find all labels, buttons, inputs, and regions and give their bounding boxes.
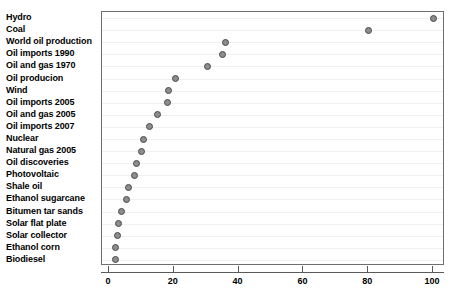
x-axis-tick-label: 60 xyxy=(297,276,307,287)
gridline xyxy=(102,175,443,176)
data-point xyxy=(165,87,172,94)
x-axis-tick xyxy=(432,266,433,273)
gridline xyxy=(102,42,443,43)
x-axis-tick-label: 80 xyxy=(362,276,372,287)
data-point xyxy=(138,148,145,155)
gridline xyxy=(102,18,443,19)
category-label: Oil producion xyxy=(6,73,98,83)
data-point xyxy=(112,244,119,251)
gridline xyxy=(102,79,443,80)
category-label: Oil and gas 1970 xyxy=(6,60,98,70)
gridline xyxy=(102,187,443,188)
gridline xyxy=(102,151,443,152)
data-point xyxy=(365,27,372,34)
data-point xyxy=(118,208,125,215)
scatter-chart: HydroCoalWorld oil productionOil imports… xyxy=(0,0,452,299)
gridline xyxy=(102,54,443,55)
data-point xyxy=(115,220,122,227)
x-axis-tick-label: 20 xyxy=(168,276,178,287)
data-point xyxy=(112,256,119,263)
category-label: Nuclear xyxy=(6,133,98,143)
category-label: Photovoltaic xyxy=(6,169,98,179)
gridline xyxy=(102,224,443,225)
gridline xyxy=(102,163,443,164)
gridline xyxy=(102,260,443,261)
data-point xyxy=(222,39,229,46)
category-label: Bitumen tar sands xyxy=(6,206,98,216)
category-label: Hydro xyxy=(6,12,98,22)
category-label: Oil imports 1990 xyxy=(6,48,98,58)
data-point xyxy=(430,15,437,22)
x-axis-tick xyxy=(302,266,303,273)
category-label: Ethanol sugarcane xyxy=(6,193,98,203)
gridline xyxy=(102,236,443,237)
category-label: Natural gas 2005 xyxy=(6,145,98,155)
data-point xyxy=(154,111,161,118)
data-point xyxy=(172,75,179,82)
category-label: Solar collector xyxy=(6,230,98,240)
gridline xyxy=(102,199,443,200)
x-axis-tick xyxy=(238,266,239,273)
x-axis-tick-label: 40 xyxy=(233,276,243,287)
gridline xyxy=(102,127,443,128)
plot-area xyxy=(101,11,444,265)
x-axis-tick xyxy=(173,266,174,273)
category-label: Wind xyxy=(6,85,98,95)
data-point xyxy=(164,99,171,106)
data-point xyxy=(146,123,153,130)
category-axis-labels: HydroCoalWorld oil productionOil imports… xyxy=(0,0,100,299)
category-label: Ethanol corn xyxy=(6,242,98,252)
data-point xyxy=(114,232,121,239)
gridline xyxy=(102,212,443,213)
x-axis-tick xyxy=(367,266,368,273)
category-label: Oil imports 2005 xyxy=(6,97,98,107)
category-label: Coal xyxy=(6,24,98,34)
gridline xyxy=(102,66,443,67)
category-label: World oil production xyxy=(6,36,98,46)
category-label: Solar flat plate xyxy=(6,218,98,228)
data-point xyxy=(125,184,132,191)
gridline xyxy=(102,248,443,249)
data-point xyxy=(123,196,130,203)
data-point xyxy=(219,51,226,58)
gridline xyxy=(102,91,443,92)
data-point xyxy=(133,160,140,167)
category-label: Oil imports 2007 xyxy=(6,121,98,131)
category-label: Biodiesel xyxy=(6,254,98,264)
data-point xyxy=(131,172,138,179)
category-label: Oil discoveries xyxy=(6,157,98,167)
data-point xyxy=(140,136,147,143)
x-axis-tick xyxy=(108,266,109,273)
gridline xyxy=(102,30,443,31)
x-axis-tick-label: 100 xyxy=(424,276,439,287)
x-axis-line xyxy=(101,272,444,273)
gridline xyxy=(102,103,443,104)
x-axis-tick-label: 0 xyxy=(105,276,110,287)
gridline xyxy=(102,139,443,140)
data-point xyxy=(204,63,211,70)
category-label: Shale oil xyxy=(6,181,98,191)
category-label: Oil and gas 2005 xyxy=(6,109,98,119)
